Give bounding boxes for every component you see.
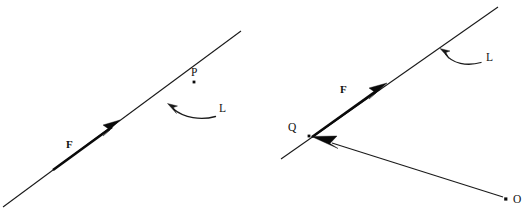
force-vector-shaft-left: [53, 127, 112, 170]
point-p-dot: [193, 81, 196, 84]
force-arrowhead-right: [369, 83, 387, 99]
point-p-label: P: [191, 66, 197, 78]
line-of-action-left: [3, 31, 241, 207]
figure-svg: F P L F Q L O: [0, 0, 525, 212]
point-q-label: Q: [288, 121, 297, 133]
point-q-dot: [308, 135, 311, 138]
figure-canvas: F P L F Q L O: [0, 0, 525, 212]
leader-curve-right: [446, 54, 482, 64]
point-o-label: O: [513, 193, 521, 205]
line-label-left: L: [219, 102, 226, 114]
force-label-left: F: [66, 138, 73, 150]
force-label-right: F: [340, 83, 347, 95]
force-vector-shaft-right: [312, 89, 379, 137]
leader-curve-left: [174, 109, 216, 118]
line-label-right: L: [486, 51, 493, 63]
position-vector-arrowhead: [312, 136, 339, 149]
leader-arrowhead-left: [168, 104, 178, 114]
panel-right: F Q L O: [281, 7, 521, 205]
panel-left: F P L: [3, 31, 241, 207]
point-o-dot: [504, 197, 507, 200]
force-arrowhead-left: [103, 120, 120, 136]
position-vector-shaft: [332, 143, 503, 197]
